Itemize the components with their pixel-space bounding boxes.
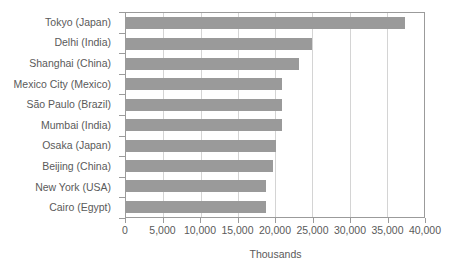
bar-row	[126, 176, 424, 196]
category-label: Tokyo (Japan)	[0, 12, 118, 33]
x-axis-tick	[200, 218, 201, 223]
bar-row	[126, 115, 424, 135]
category-label: Mexico City (Mexico)	[0, 74, 118, 95]
x-axis-label: 30,000	[334, 224, 366, 237]
category-label: New York (USA)	[0, 177, 118, 198]
x-axis-label: 35,000	[371, 224, 403, 237]
category-label-text: Mexico City (Mexico)	[14, 79, 111, 90]
x-axis-tick	[425, 218, 426, 223]
plot-area	[125, 12, 425, 218]
category-label: Shanghai (China)	[0, 53, 118, 74]
category-label: São Paulo (Brazil)	[0, 94, 118, 115]
bar-row	[126, 74, 424, 94]
bars-layer	[126, 13, 424, 217]
x-axis-tick	[388, 218, 389, 223]
bar[interactable]	[126, 160, 273, 172]
bar-chart: Tokyo (Japan)Delhi (India)Shanghai (Chin…	[0, 0, 453, 274]
category-label-text: São Paulo (Brazil)	[26, 99, 111, 110]
x-axis-label: 15,000	[221, 224, 253, 237]
bar-row	[126, 156, 424, 176]
category-label-text: Cairo (Egypt)	[49, 202, 111, 213]
x-axis-ticks	[125, 218, 426, 223]
x-axis-labels: 05,00010,00015,00020,00025,00030,00035,0…	[125, 224, 426, 240]
bar-row	[126, 135, 424, 155]
x-axis-tick	[350, 218, 351, 223]
bar[interactable]	[126, 58, 299, 70]
x-axis-label: 25,000	[296, 224, 328, 237]
bar-row	[126, 197, 424, 217]
x-axis-label: 20,000	[259, 224, 291, 237]
bar[interactable]	[126, 38, 312, 50]
x-axis-tick	[275, 218, 276, 223]
x-axis-label: 40,000	[409, 224, 441, 237]
bar-row	[126, 13, 424, 33]
category-label: Cairo (Egypt)	[0, 197, 118, 218]
bar[interactable]	[126, 119, 282, 131]
category-label: Delhi (India)	[0, 33, 118, 54]
bar-row	[126, 33, 424, 53]
category-label: Osaka (Japan)	[0, 136, 118, 157]
category-label-text: Shanghai (China)	[29, 58, 111, 69]
bar[interactable]	[126, 140, 276, 152]
bar[interactable]	[126, 99, 282, 111]
bar[interactable]	[126, 78, 282, 90]
x-axis-title: Thousands	[125, 248, 426, 260]
x-axis-tick	[163, 218, 164, 223]
category-label-text: Delhi (India)	[54, 37, 111, 48]
x-axis-label: 5,000	[149, 224, 175, 237]
bar[interactable]	[126, 17, 405, 29]
category-label-text: Tokyo (Japan)	[45, 17, 111, 28]
category-label: Beijing (China)	[0, 156, 118, 177]
category-label: Mumbai (India)	[0, 115, 118, 136]
category-axis: Tokyo (Japan)Delhi (India)Shanghai (Chin…	[0, 12, 118, 218]
bar[interactable]	[126, 180, 266, 192]
x-axis-label: 0	[122, 224, 128, 237]
category-label-text: Osaka (Japan)	[42, 140, 111, 151]
category-label-text: Beijing (China)	[42, 161, 111, 172]
bar-row	[126, 95, 424, 115]
x-axis-tick	[313, 218, 314, 223]
x-axis-tick	[238, 218, 239, 223]
bar[interactable]	[126, 201, 266, 213]
bar-row	[126, 54, 424, 74]
x-axis-tick	[125, 218, 126, 223]
category-label-text: New York (USA)	[35, 182, 111, 193]
category-label-text: Mumbai (India)	[41, 120, 111, 131]
x-axis-label: 10,000	[184, 224, 216, 237]
